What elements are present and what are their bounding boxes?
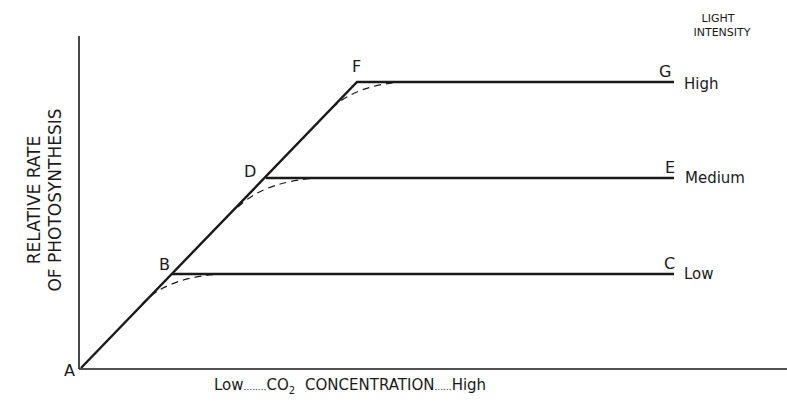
legend-high: High [684,75,718,93]
x-label-dots: ........ [244,382,267,392]
x-axis-label: Low........CO2CONCENTRATION......High [214,376,486,396]
legend-title-line2: INTENSITY [693,26,750,39]
line-high [81,82,674,368]
point-label-a: A [64,361,75,380]
y-axis-label-line2: OF PHOTOSYNTHESIS [45,108,65,291]
point-label-b: B [159,255,170,274]
dashed-curve-low [142,274,225,304]
point-label-f: F [352,57,361,76]
point-label-g: G [659,62,671,81]
point-label-e: E [665,158,675,177]
legend-medium: Medium [685,169,745,187]
x-label-concentration: CONCENTRATION [305,376,434,394]
x-label-subscript: 2 [289,385,295,396]
x-label-low: Low [214,376,244,394]
y-axis-label-line1: RELATIVE RATE [24,136,44,264]
x-label-dots: ...... [434,382,451,392]
point-label-d: D [244,162,256,181]
x-label-high: High [452,376,486,394]
photosynthesis-chart: A B D F C E G LIGHT INTENSITY High Mediu… [0,0,787,420]
legend-low: Low [684,265,714,283]
point-label-c: C [664,254,675,273]
x-label-co2: CO [266,376,288,394]
legend-title-line1: LIGHT [702,12,735,25]
